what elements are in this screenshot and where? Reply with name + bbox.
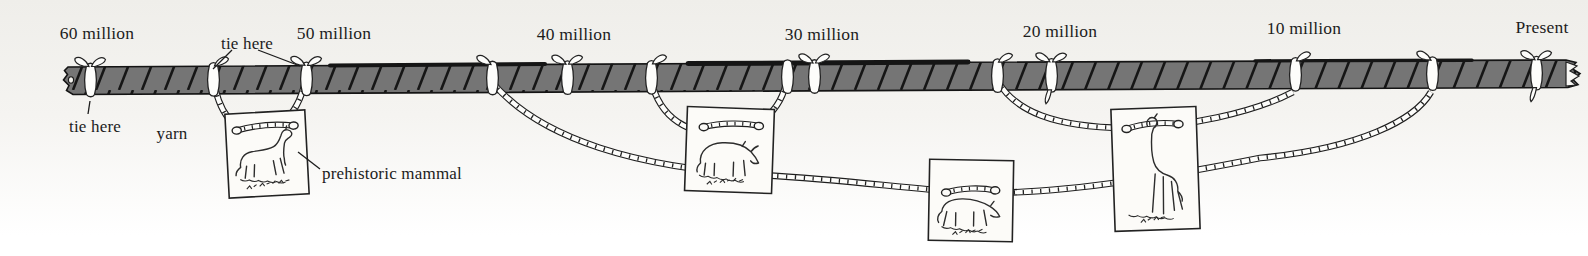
card-paper [928,159,1013,241]
rope-end-hole [68,77,73,83]
punched-hole-icon [289,122,299,130]
punched-hole-icon [1174,120,1183,128]
punched-hole-icon [699,123,708,131]
punched-hole-icon [941,189,950,196]
tick-label-30-million: 30 million [785,24,859,45]
rope-top-shading [688,62,968,64]
tick-label-60-million: 60 million [60,23,134,44]
specimen-card-camel-like [1111,107,1200,232]
annotation-tie-here-top: tie here [221,34,273,54]
tick-label-20-million: 20 million [1023,21,1097,42]
punched-hole-icon [754,122,763,130]
diagram-canvas: 60 million 50 million 40 million 30 mill… [0,0,1588,256]
rope-top-shading [1255,60,1472,61]
punched-hole-icon [232,127,242,135]
annotation-yarn: yarn [156,124,187,144]
tick-label-present: Present [1516,17,1569,38]
rope [64,60,1581,95]
rope-top-shading [330,64,545,66]
specimen-card-hyracotherium [225,110,309,198]
yarn-knot-loop2-right [782,60,794,94]
punched-hole-icon [991,187,1000,194]
punched-hole-icon [1122,125,1131,133]
specimen-card-rhino-like [685,107,775,194]
pointer-tie-here-start [88,101,90,114]
specimen-card-bear-dog [928,159,1013,241]
tick-label-50-million: 50 million [297,23,371,44]
annotation-prehistoric-mammal: prehistoric mammal [322,164,462,184]
annotation-tie-here-start: tie here [69,117,121,137]
tick-label-40-million: 40 million [537,24,611,45]
tick-label-10-million: 10 million [1267,18,1341,39]
